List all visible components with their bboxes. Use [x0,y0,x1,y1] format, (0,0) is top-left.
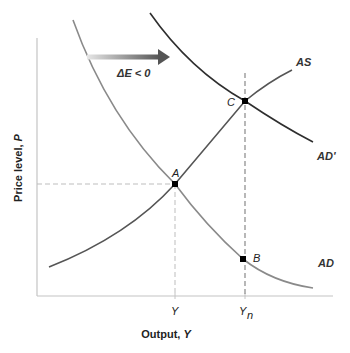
ad-curve [73,20,313,288]
ad-label-visible: AD [317,257,334,269]
point-c-marker [242,98,248,104]
as-label: AS [295,56,312,68]
tick-label-y: Y [171,305,179,317]
y-axis-var: P [12,133,24,141]
point-a-label: A [171,167,179,179]
tick-label-yn: Y [239,305,247,317]
tick-label-yn-sub: n [247,309,253,321]
ad-prime-label: AD' [316,150,336,162]
shift-arrow-label: ΔE < 0 [116,67,151,79]
ad-prime-curve [150,13,313,142]
shift-arrow [87,49,170,65]
point-a-marker [172,181,178,187]
point-b-marker [240,256,246,262]
x-axis-var: Y [183,328,192,340]
y-axis-title: Price level, P [12,133,24,202]
ad-as-diagram: ΔE < 0 A B C AS AD AD AD' Y Y n Output, … [0,0,350,353]
point-b-label: B [253,252,260,264]
point-c-label: C [227,96,235,108]
x-axis-title: Output, Y [141,328,192,340]
as-curve [49,70,292,267]
